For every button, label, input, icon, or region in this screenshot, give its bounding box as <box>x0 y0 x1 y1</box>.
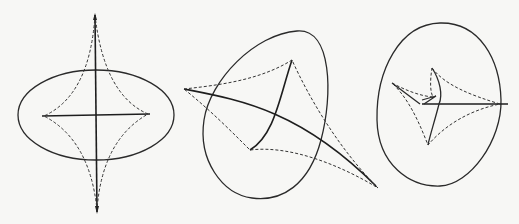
horizontal-axis <box>42 114 150 116</box>
caustic-dashed <box>392 68 500 145</box>
diagram-canvas <box>0 0 519 224</box>
inner-arc <box>250 60 292 150</box>
caustic-dashed <box>184 60 378 188</box>
swallowtail-detail <box>422 96 436 104</box>
panel-1 <box>18 13 174 214</box>
arrowhead-top <box>93 13 97 20</box>
inner-solid <box>392 68 441 145</box>
arrowhead-bottom <box>95 206 99 214</box>
oval-curve <box>203 31 328 199</box>
panel-3 <box>377 23 508 186</box>
vertical-axis <box>95 15 97 212</box>
panel-2 <box>184 31 378 199</box>
